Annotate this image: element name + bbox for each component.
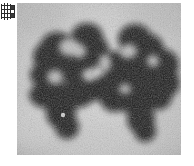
screenshot-root	[0, 0, 194, 166]
grid-table-icon-graphic	[1, 3, 15, 20]
micrograph-graphic	[17, 3, 181, 155]
grid-table-icon[interactable]	[1, 3, 15, 20]
micrograph-image	[17, 3, 181, 155]
